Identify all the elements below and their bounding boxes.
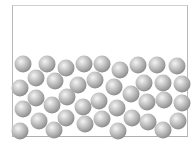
particle-sphere [156, 92, 173, 109]
particle-sphere [31, 113, 48, 130]
particle-sphere [170, 113, 187, 130]
particle-sphere [15, 56, 32, 73]
particle-sphere [91, 93, 108, 110]
particle-sphere [94, 111, 111, 128]
particle-sphere [106, 79, 123, 96]
particle-sphere [169, 58, 186, 75]
particle-sphere [124, 110, 141, 127]
particle-sphere [110, 123, 127, 140]
particle-sphere [39, 56, 56, 73]
particle-sphere [149, 57, 166, 74]
particle-sphere [44, 97, 61, 114]
particle-sphere [112, 62, 129, 79]
particle-sphere [58, 110, 75, 127]
particle-sphere [109, 100, 126, 117]
particle-sphere [46, 122, 63, 139]
particle-sphere [12, 80, 29, 97]
particle-sphere [76, 56, 93, 73]
particle-sphere [28, 90, 45, 107]
particle-layer [0, 0, 196, 147]
particle-sphere [123, 86, 140, 103]
particle-sphere [59, 89, 76, 106]
particle-sphere [12, 123, 29, 140]
particle-sphere [28, 70, 45, 87]
particle-sphere [47, 73, 64, 90]
particle-sphere [15, 101, 32, 118]
particle-sphere [155, 122, 172, 139]
particle-sphere [87, 72, 104, 89]
particle-group [12, 56, 191, 140]
particle-sphere [94, 56, 111, 73]
particle-sphere [140, 114, 157, 131]
particle-sphere [174, 95, 191, 112]
particle-sphere [136, 75, 153, 92]
particle-sphere [155, 75, 172, 92]
particle-sphere [77, 116, 94, 133]
particle-sphere [130, 57, 147, 74]
particle-sphere [174, 76, 191, 93]
particle-sphere [139, 94, 156, 111]
particle-sphere [58, 60, 75, 77]
particle-sphere [75, 99, 92, 116]
